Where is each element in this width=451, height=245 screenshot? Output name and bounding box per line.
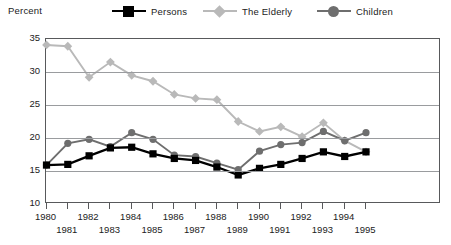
data-point-children-1993 [320,128,327,135]
y-axis-tick-labels: 353025201510 [0,0,40,245]
x-tick-label-1983: 1983 [92,224,126,235]
x-tick-label-1992: 1992 [284,211,318,222]
data-point-persons-1983 [107,144,114,151]
line-the-elderly [47,45,367,152]
x-tick-label-1995: 1995 [348,224,382,235]
gridline-15 [46,171,439,172]
x-tick-label-1990: 1990 [242,211,276,222]
data-point-children-1981 [64,140,71,147]
legend-item-children: Children [317,4,393,18]
data-point-persons-1980 [43,161,50,168]
gridline-30 [46,72,439,73]
x-tick-label-1994: 1994 [327,211,361,222]
x-tick-label-1989: 1989 [220,224,254,235]
plot-area [45,38,440,203]
legend-label-children: Children [356,6,393,17]
data-point-the-elderly-1985 [149,77,158,86]
data-point-persons-1985 [149,150,156,157]
data-point-persons-1991 [277,161,284,168]
data-point-persons-1987 [192,157,199,164]
data-point-children-1985 [149,136,156,143]
x-tick-mark-1980 [46,203,47,209]
legend-label-persons: Persons [151,6,187,17]
legend-label-the-elderly: The Elderly [242,6,292,17]
legend-line-the-elderly [203,5,237,17]
data-point-children-1984 [128,129,135,136]
y-tick-label-10: 10 [4,197,40,208]
data-point-persons-1993 [320,148,327,155]
x-tick-label-1993: 1993 [305,224,339,235]
data-point-persons-1992 [299,155,306,162]
data-point-persons-1995 [362,148,369,155]
x-tick-mark-1989 [237,203,238,209]
data-point-children-1995 [362,129,369,136]
x-tick-mark-1995 [365,203,366,209]
data-point-persons-1988 [213,163,220,170]
data-point-persons-1994 [341,153,348,160]
y-tick-label-20: 20 [4,131,40,142]
legend-line-persons [112,5,146,17]
x-tick-mark-1982 [88,203,89,209]
y-tick-label-35: 35 [4,32,40,43]
data-point-persons-1986 [171,155,178,162]
data-point-children-1990 [256,148,263,155]
x-tick-mark-1994 [344,203,345,209]
x-tick-label-1986: 1986 [156,211,190,222]
x-tick-label-1988: 1988 [199,211,233,222]
square-marker-icon [123,6,134,17]
x-tick-mark-1988 [216,203,217,209]
x-tick-mark-1985 [152,203,153,209]
data-point-the-elderly-1990 [255,127,264,136]
x-tick-mark-1981 [67,203,68,209]
circle-marker-icon [328,6,339,17]
data-point-persons-1984 [128,144,135,151]
x-tick-mark-1991 [280,203,281,209]
series-lines [46,39,441,204]
diamond-marker-icon [213,5,226,18]
gridline-20 [46,138,439,139]
x-tick-label-1980: 1980 [29,211,63,222]
data-point-persons-1982 [86,152,93,159]
data-point-children-1991 [277,141,284,148]
x-tick-label-1981: 1981 [50,224,84,235]
y-tick-label-15: 15 [4,164,40,175]
legend-item-persons: Persons [112,4,187,18]
y-tick-label-30: 30 [4,65,40,76]
x-tick-mark-1990 [259,203,260,209]
x-tick-label-1985: 1985 [135,224,169,235]
legend-line-children [317,5,351,17]
x-tick-label-1987: 1987 [178,224,212,235]
data-point-children-1982 [86,136,93,143]
data-point-the-elderly-1986 [170,90,179,99]
data-point-the-elderly-1980 [42,41,51,50]
x-tick-mark-1986 [173,203,174,209]
data-point-children-1992 [299,139,306,146]
x-tick-mark-1983 [109,203,110,209]
data-point-the-elderly-1991 [276,122,285,131]
chart-header: Percent Persons The Elderly Children [0,0,451,24]
x-tick-mark-1984 [131,203,132,209]
data-point-persons-1989 [235,171,242,178]
y-tick-label-25: 25 [4,98,40,109]
x-tick-label-1982: 1982 [71,211,105,222]
x-tick-mark-1992 [301,203,302,209]
x-tick-mark-1993 [322,203,323,209]
data-point-persons-1981 [64,161,71,168]
legend-item-the-elderly: The Elderly [203,4,292,18]
x-tick-mark-1987 [195,203,196,209]
data-point-the-elderly-1987 [191,94,200,103]
x-tick-label-1991: 1991 [263,224,297,235]
gridline-25 [46,105,439,106]
x-tick-label-1984: 1984 [114,211,148,222]
